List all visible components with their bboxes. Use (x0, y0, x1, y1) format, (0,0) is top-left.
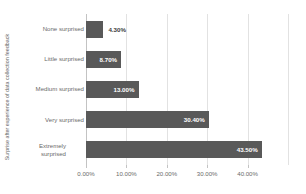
x-tickmark (248, 165, 249, 168)
bar-value-label: 43.50% (237, 146, 262, 153)
bar-row: 13.00% (86, 74, 288, 104)
y-axis-title: Surprise after experience of data collec… (0, 0, 14, 194)
category-label-text: Extremely surprised (26, 142, 66, 158)
category-label-text: Little surprised (44, 55, 84, 63)
bar-chart: Surprise after experience of data collec… (0, 0, 306, 194)
category-label-medium-surprised: Medium surprised (26, 74, 84, 104)
category-label-text: None surprised (43, 25, 84, 33)
x-tickmark (207, 165, 208, 168)
x-tick-label: 30.00% (197, 170, 218, 177)
x-tick-label: 10.00% (116, 170, 137, 177)
bar-very-surprised: 30.40% (86, 111, 209, 128)
bar-value-label: 30.40% (184, 116, 209, 123)
category-label-little-surprised: Little surprised (26, 44, 84, 74)
bar-value-label: 8.70% (100, 56, 122, 63)
plot-area: 4.30% 8.70% 13.00% 30.40% 43.50% (86, 14, 288, 165)
bar-row: 30.40% (86, 105, 288, 135)
bar-medium-surprised: 13.00% (86, 81, 139, 98)
x-tickmark (86, 165, 87, 168)
category-label-text: Medium surprised (36, 85, 84, 93)
bar-row: 8.70% (86, 44, 288, 74)
bar-row: 43.50% (86, 135, 288, 165)
bar-none-surprised: 4.30% (86, 21, 103, 38)
x-axis-ticklabels: 0.00% 10.00% 20.00% 30.00% 40.00% (86, 170, 288, 182)
bar-row: 4.30% (86, 14, 288, 44)
category-label-none-surprised: None surprised (26, 14, 84, 44)
category-label-very-surprised: Very surprised (26, 105, 84, 135)
category-label-extremely-surprised: Extremely surprised (26, 135, 66, 165)
x-tick-label: 40.00% (237, 170, 258, 177)
x-tickmark (167, 165, 168, 168)
bar-extremely-surprised: 43.50% (86, 141, 262, 158)
x-tick-label: 0.00% (77, 170, 94, 177)
x-tick-label: 20.00% (156, 170, 177, 177)
bar-value-label: 4.30% (108, 26, 126, 33)
category-label-text: Very surprised (45, 116, 84, 124)
bar-little-surprised: 8.70% (86, 51, 121, 68)
x-tickmark (126, 165, 127, 168)
bar-value-label: 13.00% (114, 86, 139, 93)
